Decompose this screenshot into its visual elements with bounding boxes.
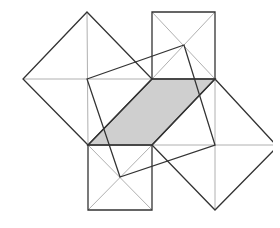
cutoff-mask: [273, 138, 280, 152]
shaded-parallelogram: [88, 79, 215, 145]
geometry-diagram: [0, 0, 280, 228]
